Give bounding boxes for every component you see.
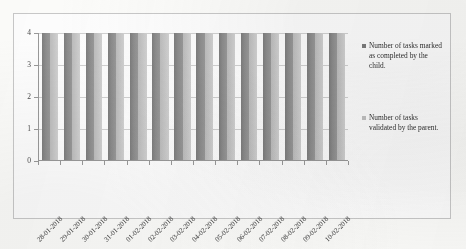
chart-legend: Number of tasks marked as completed by t… [362,41,446,174]
x-tick-mark [348,161,349,165]
bar-group [304,33,326,160]
legend-label: Number of tasks validated by the parent. [369,113,446,133]
bar-series-2 [293,33,301,160]
bar-series-1 [108,33,116,160]
y-tick-label: 2 [27,93,31,101]
bar-series-1 [329,33,337,160]
y-tick-label: 0 [27,157,31,165]
bar-series-2 [138,33,146,160]
bar-series-1 [174,33,182,160]
bar-series-2 [315,33,323,160]
plot-area: 01234 [38,33,348,161]
bar-series-1 [152,33,160,160]
x-axis-line [38,160,348,161]
bar-group [83,33,105,160]
bar-group [105,33,127,160]
bar-group [238,33,260,160]
bar-group [149,33,171,160]
legend-swatch-icon [362,116,366,120]
bar-group [282,33,304,160]
bar-series-2 [50,33,58,160]
y-tick-label: 4 [27,29,31,37]
bar-series-1 [64,33,72,160]
bar-series-1 [263,33,271,160]
legend-entry[interactable]: Number of tasks validated by the parent. [362,113,446,133]
bar-series-2 [337,33,345,160]
bar-series-2 [271,33,279,160]
bar-group [194,33,216,160]
bar-series-2 [72,33,80,160]
bar-series-2 [183,33,191,160]
bar-series-1 [196,33,204,160]
bar-group [171,33,193,160]
bar-group [61,33,83,160]
legend-swatch-icon [362,44,366,48]
bar-series-1 [42,33,50,160]
bar-series-2 [249,33,257,160]
bar-series-1 [285,33,293,160]
bar-group [260,33,282,160]
bar-group [326,33,348,160]
bar-series-1 [219,33,227,160]
x-axis-labels: 28-01-201829-01-201830-01-201831-01-2018… [38,163,348,215]
chart-frame: 01234 28-01-201829-01-201830-01-201831-0… [13,13,451,219]
bar-series-1 [241,33,249,160]
bar-series-2 [205,33,213,160]
bar-group [216,33,238,160]
legend-label: Number of tasks marked as completed by t… [369,41,446,72]
bar-series-1 [307,33,315,160]
bar-series-2 [160,33,168,160]
legend-entry[interactable]: Number of tasks marked as completed by t… [362,41,446,72]
bars-layer [39,33,348,160]
bar-series-1 [86,33,94,160]
y-axis-line [38,33,39,161]
bar-group [127,33,149,160]
y-tick-label: 3 [27,61,31,69]
bar-series-1 [130,33,138,160]
y-tick-label: 1 [27,125,31,133]
bar-series-2 [227,33,235,160]
bar-series-2 [116,33,124,160]
bar-group [39,33,61,160]
bar-series-2 [94,33,102,160]
